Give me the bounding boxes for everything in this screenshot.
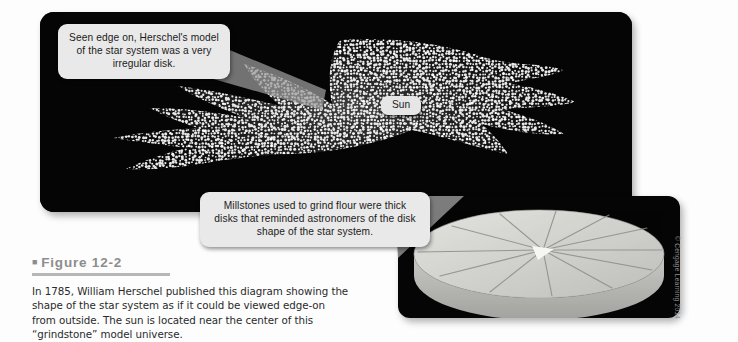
sun-label: Sun	[381, 96, 421, 115]
title-divider	[32, 273, 170, 276]
figure-page: Sun	[0, 0, 738, 342]
figure-caption-text: In 1785, William Herschel published this…	[32, 284, 352, 342]
square-bullet-icon: ■	[32, 257, 38, 267]
figure-number-label: Figure 12-2	[41, 255, 122, 270]
copyright-credit: © Cengage Learning 2014	[674, 236, 681, 336]
callout-millstone: Millstones used to grind flour were thic…	[200, 192, 430, 247]
callout-edge-on: Seen edge on, Herschel's model of the st…	[58, 24, 230, 79]
figure-caption-block: ■Figure 12-2 In 1785, William Herschel p…	[32, 255, 352, 342]
figure-number-title: ■Figure 12-2	[32, 255, 352, 270]
